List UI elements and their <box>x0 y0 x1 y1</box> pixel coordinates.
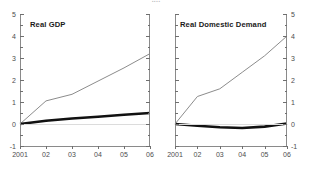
y-tick-minor <box>285 69 288 70</box>
y-tick-major-opposite <box>175 36 179 37</box>
line-thin-real-domestic-demand <box>175 36 287 124</box>
y-tick-major-opposite <box>175 14 179 15</box>
line-thick-real-gdp <box>20 113 150 124</box>
y-tick-major <box>20 58 24 59</box>
y-axis-label: 1 <box>291 99 300 106</box>
y-tick-major <box>20 124 24 125</box>
x-tick <box>220 146 221 149</box>
chart-panel-real-gdp: Real GDP 543210-120010203040506 <box>20 14 150 164</box>
y-tick-major <box>20 14 24 15</box>
x-axis-label: 06 <box>283 151 291 159</box>
y-axis-label: 5 <box>7 11 16 18</box>
y-tick-major-opposite <box>146 80 150 81</box>
plot-area-real-gdp: 543210-120010203040506 <box>20 14 150 146</box>
x-tick <box>175 146 176 149</box>
y-axis-label: 3 <box>291 55 300 62</box>
x-axis-label: 04 <box>238 151 246 159</box>
y-tick-minor <box>20 113 23 114</box>
x-axis-label: 2001 <box>12 151 28 159</box>
chart-panel-real-domestic-demand: Real Domestic Demand 543210-120010203040… <box>175 14 287 164</box>
y-tick-major <box>283 80 287 81</box>
y-axis-label: 5 <box>291 11 300 18</box>
y-axis-label: 0 <box>7 121 16 128</box>
y-tick-major <box>283 102 287 103</box>
y-tick-minor <box>148 91 151 92</box>
x-tick <box>242 146 243 149</box>
y-axis-label: 4 <box>291 33 300 40</box>
y-tick-minor <box>148 47 151 48</box>
x-axis-label: 06 <box>146 151 154 159</box>
x-axis-label: 2001 <box>167 151 183 159</box>
y-axis-label: -1 <box>7 143 16 150</box>
y-tick-minor <box>175 91 178 92</box>
y-tick-major-opposite <box>175 124 179 125</box>
zero-reference-line <box>20 124 150 125</box>
x-tick <box>150 146 151 149</box>
chart-figure: .... Real GDP 543210-120010203040506 Rea… <box>0 0 312 191</box>
y-tick-major <box>283 14 287 15</box>
y-tick-major <box>20 80 24 81</box>
series-lines-real-domestic-demand <box>175 14 287 146</box>
zero-reference-line <box>175 124 287 125</box>
y-axis-label: 2 <box>7 77 16 84</box>
y-tick-minor <box>175 113 178 114</box>
x-axis-label: 02 <box>193 151 201 159</box>
y-axis-label: 1 <box>7 99 16 106</box>
y-tick-minor <box>175 25 178 26</box>
y-tick-major-opposite <box>146 58 150 59</box>
x-tick <box>287 146 288 149</box>
x-tick <box>265 146 266 149</box>
x-axis-label: 05 <box>120 151 128 159</box>
y-tick-major <box>283 36 287 37</box>
y-axis-label: 0 <box>291 121 300 128</box>
x-tick <box>197 146 198 149</box>
y-tick-major <box>20 36 24 37</box>
x-axis-label: 04 <box>94 151 102 159</box>
plot-area-real-domestic-demand: 543210-120010203040506 <box>175 14 287 146</box>
y-tick-major <box>283 124 287 125</box>
y-tick-minor <box>148 69 151 70</box>
series-lines-real-gdp <box>20 14 150 146</box>
y-axis-label: 2 <box>291 77 300 84</box>
y-tick-major <box>283 58 287 59</box>
y-axis-label: -1 <box>291 143 300 150</box>
y-tick-major-opposite <box>146 14 150 15</box>
y-axis-label: 3 <box>7 55 16 62</box>
y-tick-minor <box>148 113 151 114</box>
y-tick-minor <box>20 69 23 70</box>
y-tick-minor <box>20 47 23 48</box>
figure-title: .... <box>0 0 312 2</box>
y-tick-minor <box>285 113 288 114</box>
x-tick <box>98 146 99 149</box>
y-tick-minor <box>285 25 288 26</box>
y-tick-minor <box>20 91 23 92</box>
y-tick-major-opposite <box>146 124 150 125</box>
y-tick-major-opposite <box>146 36 150 37</box>
x-tick <box>72 146 73 149</box>
x-axis-label: 05 <box>261 151 269 159</box>
y-tick-major <box>20 102 24 103</box>
x-tick <box>46 146 47 149</box>
x-tick <box>20 146 21 149</box>
y-tick-major-opposite <box>175 102 179 103</box>
y-tick-minor <box>148 25 151 26</box>
x-axis-line <box>175 146 287 147</box>
y-tick-minor <box>285 135 288 136</box>
y-tick-minor <box>285 91 288 92</box>
x-axis-label: 03 <box>68 151 76 159</box>
x-tick <box>124 146 125 149</box>
x-axis-line <box>20 146 150 147</box>
y-tick-major-opposite <box>175 80 179 81</box>
y-axis-label: 4 <box>7 33 16 40</box>
x-axis-label: 02 <box>42 151 50 159</box>
y-tick-minor <box>148 135 151 136</box>
y-tick-minor <box>175 135 178 136</box>
y-tick-minor <box>175 47 178 48</box>
y-tick-minor <box>175 69 178 70</box>
y-tick-minor <box>20 135 23 136</box>
y-tick-minor <box>20 25 23 26</box>
y-tick-major-opposite <box>175 58 179 59</box>
x-axis-label: 03 <box>216 151 224 159</box>
y-tick-major-opposite <box>146 102 150 103</box>
y-tick-minor <box>285 47 288 48</box>
